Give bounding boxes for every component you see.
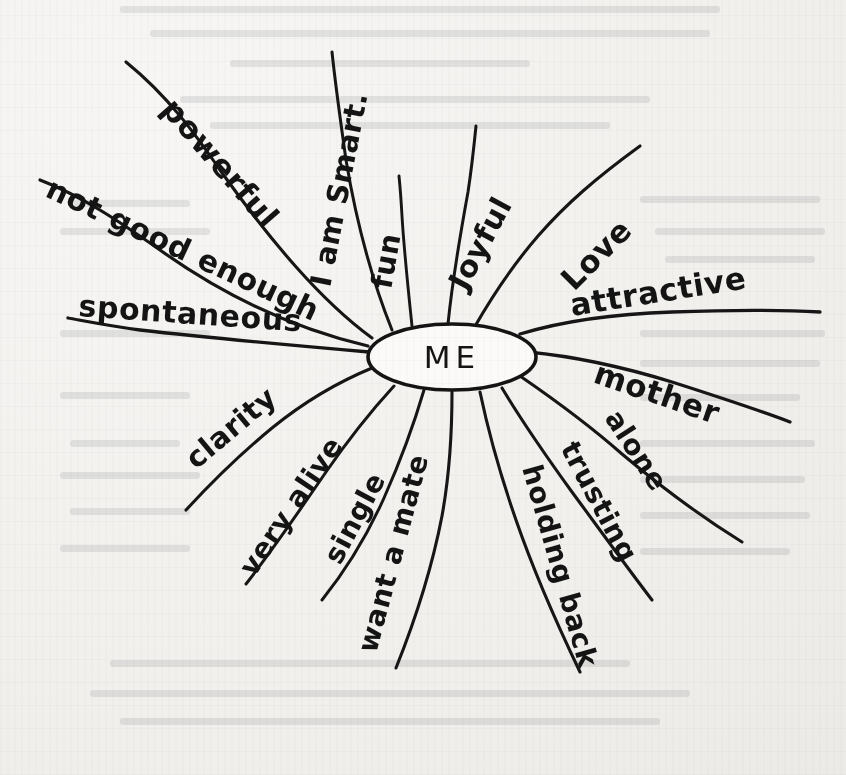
branch-label-clarity: clarity <box>179 380 284 475</box>
scanned-page: ME powerful not good enough spontaneous … <box>0 0 846 775</box>
mind-map-canvas: ME powerful not good enough spontaneous … <box>0 0 846 775</box>
branch-line-attractive <box>520 311 820 335</box>
branch-label-i-am-smart: I am Smart. <box>303 89 374 289</box>
branch-label-joyful: Joyful <box>440 191 519 297</box>
branch-label-fun: fun <box>364 230 407 291</box>
branch-label-alone: alone <box>598 404 675 497</box>
central-node-label: ME <box>424 339 480 375</box>
branch-label-powerful: powerful <box>155 91 287 235</box>
